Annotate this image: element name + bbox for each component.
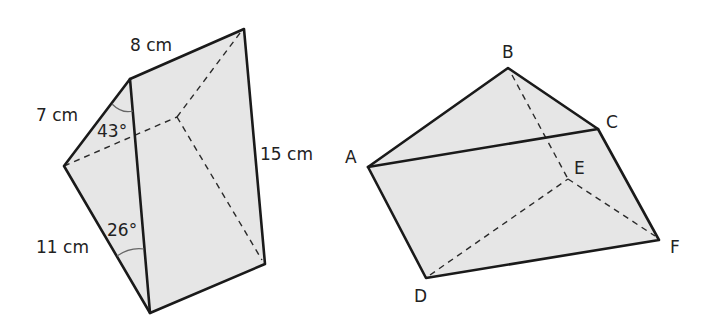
vertex-label-B: B <box>502 42 514 62</box>
label-angle-43: 43° <box>97 121 127 141</box>
label-15cm: 15 cm <box>260 144 313 164</box>
diagram-canvas: 8 cm 7 cm 43° 15 cm 26° 11 cm B C A E F … <box>0 0 722 327</box>
vertex-label-E: E <box>574 158 585 178</box>
vertex-label-A: A <box>345 147 357 167</box>
vertex-label-D: D <box>414 286 427 306</box>
label-angle-26: 26° <box>107 220 137 240</box>
label-11cm: 11 cm <box>36 237 89 257</box>
right-prism <box>368 68 659 278</box>
vertex-label-C: C <box>606 112 618 132</box>
left-prism-fill <box>64 29 265 313</box>
left-prism <box>64 29 265 313</box>
vertex-label-F: F <box>670 237 680 257</box>
label-7cm: 7 cm <box>36 105 78 125</box>
label-8cm: 8 cm <box>130 35 172 55</box>
